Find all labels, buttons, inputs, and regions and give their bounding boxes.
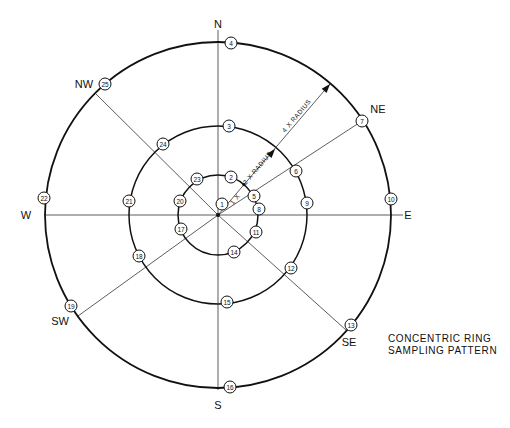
svg-text:7: 7 [360,118,364,125]
svg-text:2: 2 [229,174,233,181]
direction-label-s: S [214,399,221,411]
direction-label-sw: SW [51,315,69,327]
svg-text:9: 9 [305,200,309,207]
radius-label: 4 X RADIUS [280,98,312,134]
svg-text:8: 8 [257,206,261,213]
sample-point-23: 23 [191,173,203,185]
sample-point-16: 16 [224,381,236,393]
sample-point-9: 9 [301,197,313,209]
svg-text:16: 16 [226,384,234,391]
sample-point-25: 25 [99,78,111,90]
sample-point-21: 21 [123,195,135,207]
svg-text:4: 4 [229,40,233,47]
sample-point-18: 18 [133,250,145,262]
sample-point-20: 20 [174,195,186,207]
svg-text:3: 3 [227,123,231,130]
caption-line-1: CONCENTRIC RING [388,333,497,345]
svg-text:24: 24 [159,141,167,148]
svg-text:15: 15 [223,299,231,306]
sample-point-13: 13 [345,319,357,331]
axis-ne [218,121,362,215]
sample-point-19: 19 [65,300,77,312]
direction-label-se: SE [342,336,357,348]
svg-text:22: 22 [40,195,48,202]
svg-text:10: 10 [387,196,395,203]
arrowhead-4x-icon [322,84,330,93]
svg-text:14: 14 [230,249,238,256]
sample-point-15: 15 [221,296,233,308]
direction-label-e: E [404,209,411,221]
sample-point-11: 11 [250,226,262,238]
svg-text:13: 13 [347,322,355,329]
direction-label-n: N [214,18,222,30]
radius-label: 1 X [228,192,241,205]
radius-labels: 1 X2 X RADIUS4 X RADIUS [228,98,312,206]
sample-point-8: 8 [253,203,265,215]
svg-text:21: 21 [125,198,133,205]
sample-point-5: 5 [248,190,260,202]
sample-point-7: 7 [356,115,368,127]
svg-text:19: 19 [67,303,75,310]
center-point [216,213,220,217]
axis-nw [96,94,218,215]
svg-text:1: 1 [220,201,224,208]
caption-line-2: SAMPLING PATTERN [388,345,497,357]
sample-point-17: 17 [175,223,187,235]
direction-label-nw: NW [75,78,94,90]
concentric-ring-diagram: 1 X2 X RADIUS4 X RADIUS 1234567891011121… [0,0,510,428]
svg-text:5: 5 [252,193,256,200]
sample-point-1: 1 [216,198,228,210]
sample-point-10: 10 [385,193,397,205]
sample-point-3: 3 [223,120,235,132]
svg-text:12: 12 [287,265,295,272]
sample-point-6: 6 [290,165,302,177]
sample-point-22: 22 [38,192,50,204]
svg-text:20: 20 [176,198,184,205]
sample-point-14: 14 [228,246,240,258]
diagram-caption: CONCENTRIC RING SAMPLING PATTERN [388,333,497,357]
sample-point-2: 2 [225,171,237,183]
sample-point-4: 4 [225,37,237,49]
sample-point-12: 12 [285,262,297,274]
direction-label-w: W [21,209,32,221]
radius-label: 2 X RADIUS [241,150,273,186]
axis-se [218,215,346,330]
svg-text:6: 6 [294,168,298,175]
svg-text:25: 25 [101,81,109,88]
svg-text:18: 18 [135,253,143,260]
direction-label-ne: NE [370,103,385,115]
sample-point-24: 24 [157,138,169,150]
svg-text:17: 17 [177,226,185,233]
svg-text:23: 23 [193,176,201,183]
svg-text:11: 11 [253,229,260,236]
